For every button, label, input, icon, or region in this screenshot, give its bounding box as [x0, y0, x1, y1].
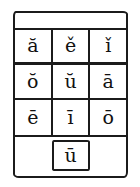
grid-cell-r2c2: ŭ: [53, 65, 91, 98]
grid-cell-r1c3: ǐ: [90, 30, 126, 62]
grid-cell-r1c2: ě: [53, 30, 91, 62]
vowel-grid-frame: ă ě ǐ ŏ ŭ ā ē ī ō ū: [13, 11, 128, 178]
table-row: ă ě ǐ: [15, 30, 126, 65]
grid-cell-r2c1: ŏ: [15, 65, 53, 98]
grid-cell-footer: ū: [52, 140, 90, 171]
grid-cell-r2c3: ā: [90, 65, 126, 98]
grid-cell-r3c2: ī: [53, 100, 91, 135]
table-row: ē ī ō: [15, 100, 126, 135]
grid-header-strip: [15, 13, 126, 30]
grid-cell-r3c1: ē: [15, 100, 53, 135]
grid-cell-r3c3: ō: [90, 100, 126, 135]
grid-cell-r1c1: ă: [15, 30, 53, 62]
table-row: ŏ ŭ ā: [15, 65, 126, 100]
grid-body: ă ě ǐ ŏ ŭ ā ē ī ō ū: [15, 30, 126, 176]
grid-footer-area: ū: [15, 135, 126, 176]
figure-canvas: ă ě ǐ ŏ ŭ ā ē ī ō ū: [0, 0, 140, 187]
